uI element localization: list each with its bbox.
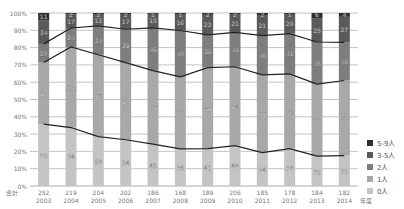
bar-value-label: 20 <box>286 20 294 27</box>
bar-value-label: 21 <box>259 22 267 29</box>
y-tick-label: 10% <box>14 165 28 172</box>
x-tick-label: 2012 <box>282 197 297 204</box>
x-tick-label: 2006 <box>118 197 133 204</box>
bar-value-label: 2 <box>124 11 128 18</box>
total-label: 184 <box>311 189 323 196</box>
legend-swatch <box>367 140 373 146</box>
bar-value-label: 48 <box>231 162 239 169</box>
bar-value-label: 94 <box>231 103 239 110</box>
bar-value-label: 25 <box>313 27 321 34</box>
x-tick-label: 2014 <box>337 197 352 204</box>
total-label: 178 <box>284 189 296 196</box>
bar-value-label: 6 <box>315 11 319 18</box>
bar-value-label: 39 <box>122 42 130 49</box>
bar-value-label: 74 <box>67 153 75 160</box>
total-label: 189 <box>202 189 214 196</box>
bar-value-label: 36 <box>204 48 212 55</box>
y-tick-label: 100% <box>10 10 27 17</box>
total-label: 185 <box>257 189 269 196</box>
bar-value-label: 2 <box>96 11 100 18</box>
bar-value-label: 22 <box>204 21 212 28</box>
bar-value-label: 41 <box>286 50 294 57</box>
bar-value-label: 76 <box>286 108 294 115</box>
bar-value-label: 36 <box>177 164 185 171</box>
bar-value-label: 34 <box>95 37 103 44</box>
bar-value-label: 41 <box>204 164 212 171</box>
legend-item-0: 0人 <box>367 185 395 197</box>
bar-value-label: 89 <box>204 105 212 112</box>
x-tick-label: 2004 <box>63 197 78 204</box>
bar-value-label: 90 <box>122 98 130 105</box>
legend-item-5-9: 5-9人 <box>367 137 395 149</box>
cumulative-line <box>44 26 345 44</box>
total-label: 206 <box>229 189 241 196</box>
legend-label: 2人 <box>377 162 388 172</box>
total-label: 168 <box>175 189 187 196</box>
x-tick-label: 2005 <box>91 197 106 204</box>
y-tick-label: 50% <box>14 96 28 103</box>
bar-value-label: 46 <box>149 46 157 53</box>
legend-swatch <box>367 188 373 194</box>
bar-value-label: 58 <box>95 158 103 165</box>
bar-value-label: 79 <box>341 115 349 122</box>
legend-item-3-5: 3-5人 <box>367 149 395 161</box>
y-tick-label: 90% <box>14 27 28 34</box>
total-label: 186 <box>147 189 159 196</box>
bar-value-label: 2 <box>206 11 210 18</box>
bar-value-label: 34 <box>259 166 267 173</box>
y-tick-label: 30% <box>14 131 28 138</box>
legend-swatch <box>367 152 373 158</box>
total-row-label: 合計 <box>6 189 18 197</box>
bar-value-label: 2 <box>69 11 73 18</box>
bar-value-label: 15 <box>149 17 157 24</box>
total-label: 202 <box>120 189 132 196</box>
x-tick-label: 2010 <box>227 197 242 204</box>
x-tick-label: 2011 <box>255 197 270 204</box>
y-tick-label: 0% <box>17 183 27 190</box>
x-tick-label: 2007 <box>145 197 160 204</box>
bar-value-label: 16 <box>177 19 185 26</box>
total-label: 182 <box>339 189 351 196</box>
x-axis-label: 年度 <box>360 197 372 205</box>
bar-value-label: 1 <box>178 11 182 18</box>
bar-value-label: 32 <box>341 167 349 174</box>
bar-value-label: 41 <box>231 46 239 53</box>
x-tick-label: 2013 <box>309 197 324 204</box>
cumulative-line <box>44 47 345 84</box>
y-tick-label: 70% <box>14 61 28 68</box>
bar-value-label: 4 <box>342 11 346 18</box>
legend-swatch <box>367 164 373 170</box>
y-tick-label: 20% <box>14 148 28 155</box>
x-tick-label: 2008 <box>173 197 188 204</box>
bar-value-label: 21 <box>231 20 239 27</box>
bar-value-label: 2 <box>260 11 264 18</box>
bar-value-label: 45 <box>177 50 185 57</box>
legend-item-2: 2人 <box>367 161 395 173</box>
legend-item-1: 1人 <box>367 173 395 185</box>
bar-value-label: 54 <box>122 159 130 166</box>
bar-value-label: 1 <box>151 11 155 18</box>
total-label: 252 <box>38 189 50 196</box>
legend-label: 3-5人 <box>377 150 395 160</box>
bar-value-label: 70 <box>177 109 185 116</box>
bar-value-label: 11 <box>40 13 48 20</box>
bar-value-label: 2 <box>233 11 237 18</box>
bar-value-label: 90 <box>40 152 48 159</box>
bar-value-label: 17 <box>122 18 130 25</box>
bar-value-label: 17 <box>67 18 75 25</box>
legend-swatch <box>367 176 373 182</box>
bar-value-label: 79 <box>259 110 267 117</box>
bar-value-label: 34 <box>40 29 48 36</box>
bar-value-label: 27 <box>341 26 349 33</box>
stacked-bar-chart: 0%10%20%30%40%50%60%70%80%90%100%9090273… <box>0 0 404 209</box>
bar-value-label: 90 <box>40 90 48 97</box>
x-tick-label: 2009 <box>200 197 215 204</box>
bar-value-label: 45 <box>313 60 321 67</box>
chart-legend: 5-9人 3-5人 2人 1人 0人 <box>367 137 395 197</box>
y-tick-label: 80% <box>14 44 28 51</box>
bar-value-label: 32 <box>313 168 321 175</box>
bar-value-label: 27 <box>40 50 48 57</box>
legend-label: 1人 <box>377 174 388 184</box>
bar-value-label: 77 <box>313 117 321 124</box>
bar-value-label: 38 <box>286 164 294 171</box>
